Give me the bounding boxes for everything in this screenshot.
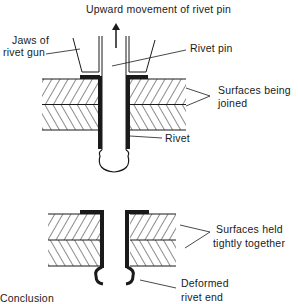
rivet-label: Rivet bbox=[165, 132, 190, 144]
surfaces-held-label-line1: Surfaces held bbox=[216, 223, 283, 235]
surfaces-held-label-line2: tightly together bbox=[213, 237, 285, 249]
title-label: Upward movement of rivet pin bbox=[86, 3, 231, 15]
jaws-label-line1: Jaws of bbox=[12, 34, 49, 46]
jaws-label-line2: rivet gun bbox=[3, 46, 45, 58]
bottom-left-fragment: Conclusion bbox=[0, 292, 54, 304]
upward-arrow-icon bbox=[112, 23, 120, 48]
deformed-label-line2: rivet end bbox=[181, 291, 223, 303]
top-assembly bbox=[42, 23, 210, 172]
deformed-label-line1: Deformed bbox=[181, 277, 229, 289]
surfaces-joined-label-line1: Surfaces being bbox=[218, 84, 291, 96]
surfaces-joined-label-line2: joined bbox=[218, 97, 247, 109]
rivet-pin-label: Rivet pin bbox=[190, 42, 233, 54]
